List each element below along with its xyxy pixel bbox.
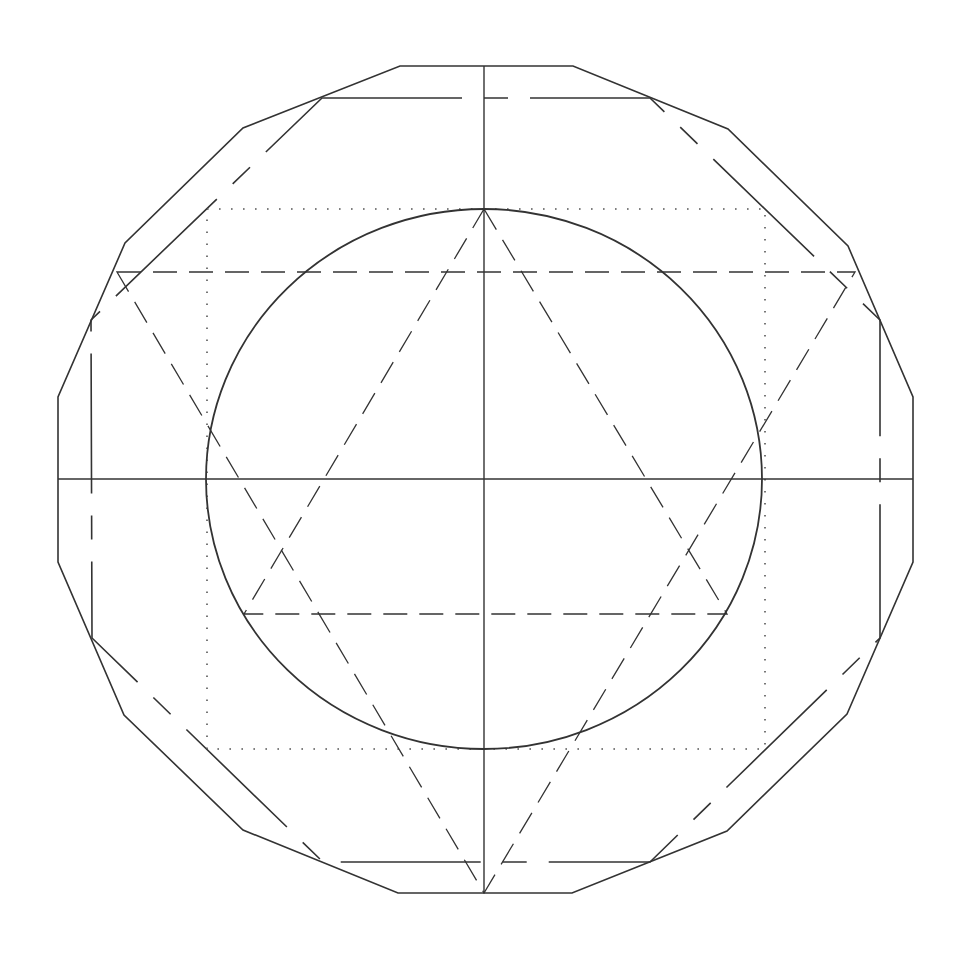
geometric-construction — [0, 0, 969, 957]
diagram-canvas — [0, 0, 969, 957]
triangle-pointing-up — [244, 209, 727, 614]
